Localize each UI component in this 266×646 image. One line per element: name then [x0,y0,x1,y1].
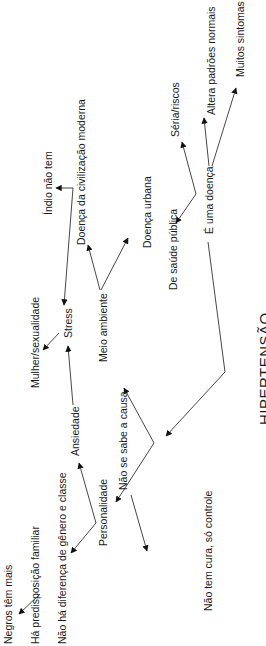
edge-meio-to-civilizacao [88,245,100,290]
node-indio: Índio não tem [42,151,54,215]
node-predisposicao: Há predisposição familiar [29,526,41,644]
edge-title-to-uma-doenca [208,242,225,372]
node-stress: Stress [62,308,74,338]
edge-uma-doenca-to-saude-publica [176,194,196,223]
node-saude-publica: De saúde pública [167,209,179,290]
edge-meio-to-urbana [101,238,128,290]
node-sintomas: Muitos sintomas [234,1,246,77]
edge-indio-stress [56,188,73,305]
node-altera: Altera padrões normais [205,6,217,115]
node-nao-diferenca: Não há diferença de gênero e classe [56,472,68,644]
concept-map: Negros têm mais Há predisposição familia… [0,0,266,646]
diagram-title: HIPERTENSÃO [256,312,266,425]
node-personalidade: Personalidade [97,479,109,546]
edge-personalidade-to-nao-diferenca [71,523,96,553]
edge-nao-sabe-to-nao-tem-cura [131,495,147,551]
edge-uma-doenca-to-seria [182,142,196,194]
node-civilizacao: Doença da civilização moderna [75,99,87,245]
nodes: Negros têm mais Há predisposição familia… [2,1,266,644]
node-nao-sabe-causa: Não se sabe a causa [117,391,129,490]
node-meio-ambiente: Meio ambiente [97,293,109,362]
node-nao-tem-cura: Não tem cura, só controle [202,491,214,611]
edge-personalidade-to-ansiedade [79,463,96,523]
node-negros: Negros têm mais [2,565,14,644]
node-uma-doenca: É uma doença [203,166,215,234]
edge-title-to-nao-sabe-causa [166,372,225,436]
edge-uma-doenca-to-altera [204,118,209,166]
edge-stress-to-mulher [43,333,59,350]
node-ansiedade: Ansiedade [69,406,81,456]
node-mulher: Mulher/sexualidade [29,297,41,388]
edge-ansiedade-to-stress [68,346,73,405]
node-seria: Séria/riscos [169,82,181,137]
node-urbana: Doença urbana [141,176,153,248]
